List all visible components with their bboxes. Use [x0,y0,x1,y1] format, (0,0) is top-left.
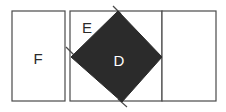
rect-right-unlabeled [162,11,216,101]
figure-canvas: F E D [0,0,226,112]
label-e: E [82,19,92,36]
geometry-diagram: F E D [0,0,226,112]
label-d: D [114,52,125,69]
label-f: F [33,50,42,67]
